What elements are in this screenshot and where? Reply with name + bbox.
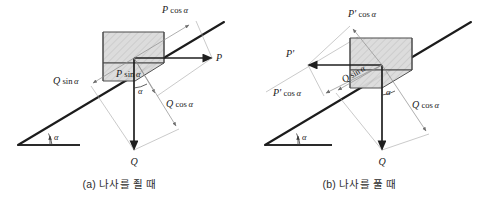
label-Q-a: Q (130, 156, 138, 167)
label-Pprime-b: P' (285, 48, 295, 59)
diagram-b-canvas: P'cosα P' P'cosα Qsinα Qcosα Q α α (240, 0, 479, 176)
label-Q-cos-alpha-a: Qcosα (166, 98, 194, 109)
label-Q-cos-alpha-b: Qcosα (412, 99, 440, 110)
label-P-cos-alpha-a: Pcosα (161, 4, 188, 15)
guide-P-to-Psin-a (157, 58, 212, 96)
label-alpha-inner-b: α (386, 87, 391, 97)
label-P-sin-alpha-a: Psinα (115, 68, 141, 79)
label-Pprime-cos-alpha-low-b: P'cosα (272, 87, 302, 98)
diagram-panel-a: Pcosα P Psinα Qsinα Qcosα Q α α (a) 나사를 … (0, 0, 239, 201)
label-P-a: P (215, 52, 222, 63)
caption-b: (b) 나사를 풀 때 (240, 176, 479, 191)
diagram-a-canvas: Pcosα P Psinα Qsinα Qcosα Q α α (0, 0, 239, 176)
label-Q-b: Q (378, 156, 386, 167)
figure-root: Pcosα P Psinα Qsinα Qcosα Q α α (a) 나사를 … (0, 0, 479, 201)
guide-Q-to-Qsin-b (336, 93, 382, 150)
guide-Q-to-Qcos-a (134, 129, 179, 150)
guide-Q-to-Qcos-b (382, 134, 429, 150)
caption-a: (a) 나사를 죌 때 (0, 176, 239, 191)
block-b (350, 38, 412, 88)
label-alpha-inner-a: α (138, 86, 143, 96)
diagram-panel-b: P'cosα P' P'cosα Qsinα Qcosα Q α α (b) 나… (240, 0, 479, 201)
guide-P-to-Pcos-a (196, 21, 212, 58)
label-Q-sin-alpha-a: Qsinα (53, 75, 79, 86)
label-Pprime-cos-alpha-top-b: P'cosα (347, 8, 377, 19)
label-alpha-incline-a: α (54, 132, 59, 142)
guide-Q-to-Qsin-a (91, 86, 134, 150)
guide-Pprime-to-cos-low-b (308, 65, 324, 96)
label-alpha-incline-b: α (302, 132, 307, 142)
